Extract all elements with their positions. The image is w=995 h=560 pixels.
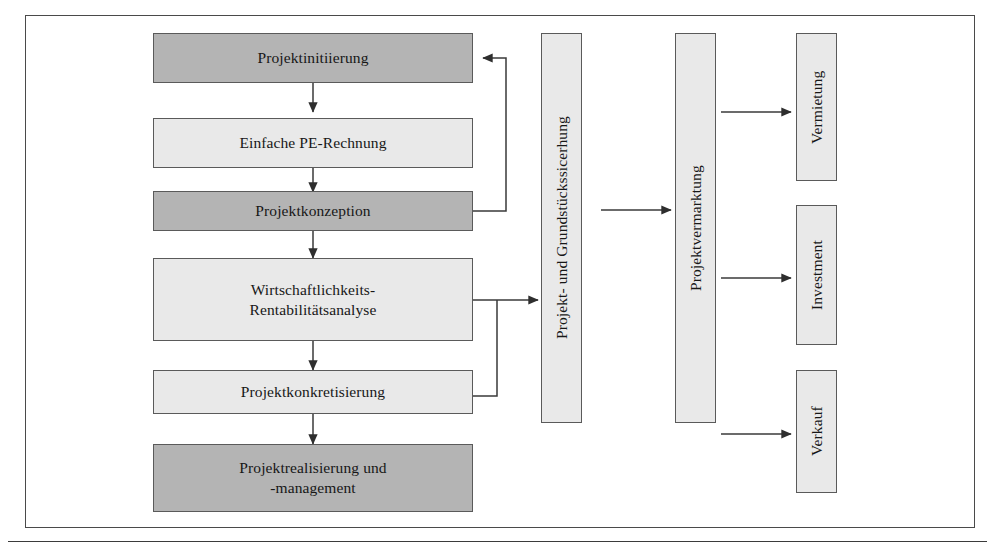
node-einfache-pe-rechnung[interactable]: Einfache PE-Rechnung [153, 118, 473, 168]
node-label: Projektkonzeption [249, 201, 376, 221]
diagram-page: Projektinitiierung Einfache PE-Rechnung … [0, 0, 995, 560]
node-projektkonzeption[interactable]: Projektkonzeption [153, 191, 473, 231]
node-projektkonkretisierung[interactable]: Projektkonkretisierung [153, 370, 473, 414]
node-label: Vermietung [807, 64, 827, 149]
node-label: Projektkonkretisierung [235, 382, 391, 402]
node-label: Projektrealisierung und -management [233, 458, 392, 498]
node-projekt-und-grundstueckssicherung[interactable]: Projekt- und Grundstückssicerhung [541, 33, 582, 423]
node-verkauf[interactable]: Verkauf [796, 370, 837, 493]
node-label: Projektinitiierung [251, 48, 374, 68]
node-label: Projektvermarktung [686, 159, 706, 297]
node-label: Wirtschaftlichkeits- Rentabilitätsanalys… [244, 280, 383, 320]
node-label: Verkauf [807, 401, 827, 463]
node-vermietung[interactable]: Vermietung [796, 33, 837, 181]
node-projektvermarktung[interactable]: Projektvermarktung [675, 33, 716, 423]
node-wirtschaftlichkeits-rentabilitaetsanalyse[interactable]: Wirtschaftlichkeits- Rentabilitätsanalys… [153, 258, 473, 341]
node-label: Einfache PE-Rechnung [233, 133, 392, 153]
node-label: Investment [807, 234, 827, 316]
node-projektrealisierung-und-management[interactable]: Projektrealisierung und -management [153, 444, 473, 512]
node-label: Projekt- und Grundstückssicerhung [552, 111, 572, 346]
caption-divider [8, 541, 987, 542]
figure-caption [60, 547, 940, 560]
node-projektinitiierung[interactable]: Projektinitiierung [153, 33, 473, 83]
node-investment[interactable]: Investment [796, 205, 837, 345]
